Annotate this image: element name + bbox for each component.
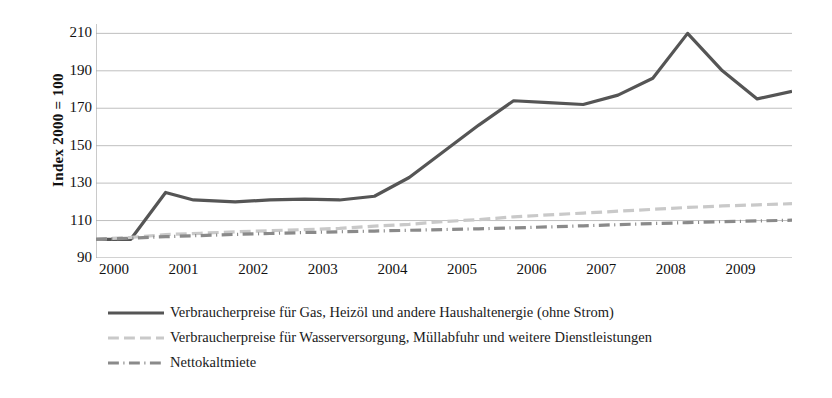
x-tick-label: 2005 — [447, 262, 477, 277]
x-tick-label: 2003 — [308, 262, 338, 277]
x-tick-label: 2006 — [517, 262, 547, 277]
x-axis-tick-labels: 2000200120022003200420052006200720082009 — [96, 262, 816, 286]
legend-swatch-icon — [108, 331, 164, 345]
chart-legend: Verbraucherpreise für Gas, Heizöl und an… — [108, 300, 808, 375]
y-tick-label: 190 — [70, 63, 93, 78]
x-tick-label: 2004 — [377, 262, 407, 277]
legend-swatch-icon — [108, 356, 164, 370]
legend-label: Nettokaltmiete — [170, 354, 256, 371]
y-tick-label: 90 — [77, 250, 92, 265]
plot-area — [96, 24, 792, 258]
y-tick-label: 150 — [70, 138, 93, 153]
legend-label: Verbraucherpreise für Wasserversorgung, … — [170, 329, 652, 346]
legend-item[interactable]: Nettokaltmiete — [108, 350, 808, 375]
x-tick-label: 2000 — [99, 262, 129, 277]
y-tick-label: 130 — [70, 175, 93, 190]
y-tick-label: 170 — [70, 100, 93, 115]
y-tick-label: 210 — [70, 25, 93, 40]
line-chart-svg — [96, 24, 792, 258]
legend-swatch-icon — [108, 306, 164, 320]
y-tick-label: 110 — [70, 213, 92, 228]
legend-item[interactable]: Verbraucherpreise für Gas, Heizöl und an… — [108, 300, 808, 325]
y-axis-tick-labels: 21019017015013011090 — [52, 24, 92, 258]
x-tick-label: 2001 — [169, 262, 199, 277]
x-tick-label: 2008 — [656, 262, 686, 277]
chart-figure: Index 2000 = 100 21019017015013011090 20… — [0, 0, 832, 398]
x-tick-label: 2002 — [238, 262, 268, 277]
x-tick-label: 2009 — [725, 262, 755, 277]
x-tick-label: 2007 — [586, 262, 616, 277]
legend-item[interactable]: Verbraucherpreise für Wasserversorgung, … — [108, 325, 808, 350]
plot-canvas — [96, 24, 792, 258]
legend-label: Verbraucherpreise für Gas, Heizöl und an… — [170, 304, 614, 321]
series-line-3 — [96, 220, 792, 239]
